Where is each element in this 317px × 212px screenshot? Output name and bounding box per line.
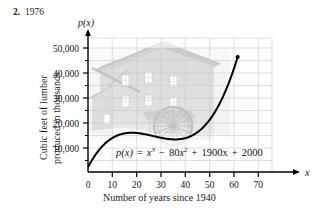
x-tick-label: 70	[254, 180, 264, 190]
equation-plus-1: +	[192, 147, 198, 158]
x-tick-labels: 0 10 20 30 40 50 60 70	[86, 180, 264, 190]
y-axis-name: p(x)	[77, 17, 95, 29]
x-axis-name: x	[304, 167, 310, 178]
x-tick-label: 40	[181, 180, 191, 190]
equation-term3: 1900x	[202, 147, 229, 158]
x-tick-label: 10	[108, 180, 118, 190]
y-tick-label: 50,000	[53, 44, 79, 54]
x-axis-ticks	[112, 172, 258, 177]
x-tick-label: 20	[132, 180, 142, 190]
equation-plus-2: +	[232, 147, 238, 158]
x-tick-label: 60	[229, 180, 239, 190]
y-axis-ticks	[83, 48, 88, 148]
x-tick-label: 30	[156, 180, 166, 190]
equation-term2-coef: 80	[169, 147, 180, 158]
x-tick-label: 50	[205, 180, 215, 190]
y-axis-title-line2: produced in thousands	[51, 72, 62, 164]
curve-endpoint-marker	[236, 55, 240, 59]
equation-term4: 2000	[242, 147, 263, 158]
y-axis-title-line1: Cubic feet of lumber	[38, 75, 49, 160]
equation-term1-exponent: 3	[151, 146, 156, 154]
equation-minus: −	[159, 147, 165, 158]
equation-lhs: p(x)	[115, 147, 133, 159]
equation-term2-exponent: 2	[184, 146, 188, 154]
figure-container: 2. 1976	[0, 0, 317, 212]
x-axis-title: Number of years since 1940	[103, 192, 216, 203]
equation-equals: =	[137, 147, 143, 158]
x-tick-label: 0	[86, 180, 91, 190]
